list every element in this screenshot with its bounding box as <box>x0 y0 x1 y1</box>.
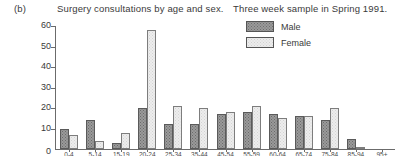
x-tick-label-35-44: 35-44 <box>191 151 208 156</box>
x-tick-label-60-64: 60-64 <box>269 151 286 156</box>
bar-female-5-14 <box>95 141 104 149</box>
y-tick-40 <box>51 67 55 68</box>
bar-male-60-64 <box>269 114 278 149</box>
bar-female-25-34 <box>173 106 182 149</box>
bar-female-65-74 <box>304 116 313 149</box>
bar-group: 5-14 <box>82 26 108 149</box>
figure-subtitle: Three week sample in Spring 1991. <box>233 3 387 14</box>
bar-group: 60-64 <box>265 26 291 149</box>
bar-group: 85-94 <box>343 26 369 149</box>
bar-female-0-4 <box>69 135 78 149</box>
x-tick-label-75-84: 75-84 <box>322 151 339 156</box>
x-tick-label-95+: 95+ <box>376 151 387 156</box>
x-tick-label-45-54: 45-54 <box>217 151 234 156</box>
bar-male-35-44 <box>190 124 199 149</box>
bar-male-65-74 <box>295 116 304 149</box>
y-tick-label-20: 20 <box>29 102 51 112</box>
y-tick-label-10: 10 <box>29 123 51 133</box>
bar-female-45-54 <box>226 112 235 149</box>
bar-female-35-44 <box>199 108 208 149</box>
y-tick-label-60: 60 <box>29 20 51 30</box>
bar-male-15-19 <box>112 143 121 149</box>
x-tick-label-65-74: 65-74 <box>295 151 312 156</box>
figure: (b) Surgery consultations by age and sex… <box>0 0 405 156</box>
bar-group: 55-59 <box>239 26 265 149</box>
y-tick-label-40: 40 <box>29 61 51 71</box>
y-tick-30 <box>51 88 55 89</box>
y-tick-10 <box>51 129 55 130</box>
y-tick-60 <box>51 26 55 27</box>
x-tick-label-20-24: 20-24 <box>139 151 156 156</box>
bar-male-0-4 <box>60 129 69 150</box>
x-tick-label-25-34: 25-34 <box>165 151 182 156</box>
y-axis-zero-label: 0 <box>46 146 51 156</box>
bar-female-20-24 <box>147 30 156 149</box>
bar-female-15-19 <box>121 133 130 149</box>
bar-male-55-59 <box>243 112 252 149</box>
bar-group: 75-84 <box>317 26 343 149</box>
x-tick-label-5-14: 5-14 <box>89 151 102 156</box>
bar-male-25-34 <box>164 124 173 149</box>
figure-title: Surgery consultations by age and sex. <box>57 3 224 14</box>
bar-female-75-84 <box>330 108 339 149</box>
bar-female-60-64 <box>278 118 287 149</box>
x-tick-label-85-94: 85-94 <box>348 151 365 156</box>
bar-group: 45-54 <box>212 26 238 149</box>
bar-group: 20-24 <box>134 26 160 149</box>
bar-female-55-59 <box>252 106 261 149</box>
bar-group: 15-19 <box>108 26 134 149</box>
y-tick-20 <box>51 108 55 109</box>
bar-female-85-94 <box>356 147 365 149</box>
bar-group: 25-34 <box>160 26 186 149</box>
y-tick-label-30: 30 <box>29 82 51 92</box>
figure-part-label: (b) <box>14 3 26 14</box>
bar-male-20-24 <box>138 108 147 149</box>
bar-male-5-14 <box>86 120 95 149</box>
bar-group: 65-74 <box>291 26 317 149</box>
y-tick-50 <box>51 47 55 48</box>
bar-male-85-94 <box>347 139 356 149</box>
bar-male-75-84 <box>321 120 330 149</box>
x-tick-label-15-19: 15-19 <box>113 151 130 156</box>
bar-group: 35-44 <box>186 26 212 149</box>
bar-group: 0-4 <box>56 26 82 149</box>
x-tick-label-55-59: 55-59 <box>243 151 260 156</box>
bar-group: 95+ <box>369 26 395 149</box>
bar-series-container: 0-45-1415-1920-2425-3435-4445-5455-5960-… <box>56 26 395 149</box>
x-tick-label-0-4: 0-4 <box>64 151 73 156</box>
bar-male-45-54 <box>217 114 226 149</box>
y-tick-label-50: 50 <box>29 41 51 51</box>
plot-area: 102030405060 0 0-45-1415-1920-2425-3435-… <box>55 26 395 150</box>
